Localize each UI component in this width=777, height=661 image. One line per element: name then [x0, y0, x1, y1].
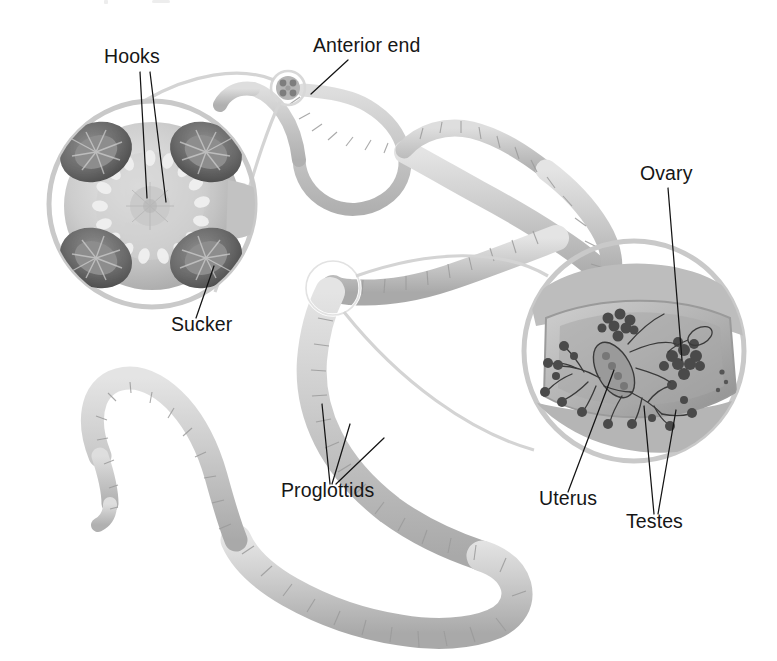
- scolex-source-highlight: [271, 71, 305, 105]
- label-anterior-end: Anterior end: [313, 34, 420, 56]
- scolex-neck-stub: [226, 180, 272, 240]
- tapeworm-anatomy-figure: Hooks Anterior end Sucker Proglottids Ov…: [0, 0, 777, 661]
- scolex-detail-view: [49, 101, 272, 307]
- label-hooks: Hooks: [104, 45, 160, 67]
- label-sucker: Sucker: [171, 313, 233, 335]
- cropped-caption-artifact: [104, 0, 170, 4]
- proglottid-detail-view: [524, 241, 747, 461]
- strobila-upper: [220, 89, 253, 105]
- label-testes: Testes: [626, 510, 683, 532]
- label-ovary: Ovary: [640, 162, 693, 184]
- neck-region: [299, 90, 405, 209]
- label-uterus: Uterus: [539, 487, 597, 509]
- strobila-descending-chain: [312, 292, 482, 556]
- label-proglottids: Proglottids: [281, 479, 374, 501]
- diagram-canvas: Hooks Anterior end Sucker Proglottids Ov…: [0, 0, 777, 661]
- strobila-tail-end: [98, 504, 110, 525]
